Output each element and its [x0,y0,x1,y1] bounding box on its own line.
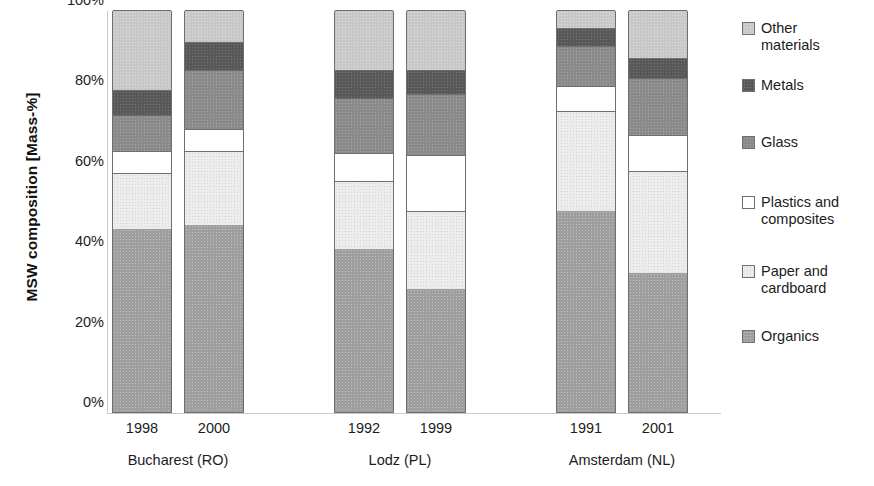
bar-segment-1992-other-materials [335,10,393,70]
legend-item-label: Glass [761,134,798,151]
bar-segment-1998-plastics-and-composites [113,151,171,173]
legend-item-label: Paper and cardboard [761,263,828,297]
bar-2000 [184,11,244,413]
legend-item-label: Other materials [761,20,820,54]
bar-segment-1999-metals [407,70,465,94]
legend-item-other-materials[interactable]: Other materials [742,20,820,54]
bar-segment-1992-plastics-and-composites [335,153,393,181]
legend-item-paper-and-cardboard[interactable]: Paper and cardboard [742,263,828,297]
plot-area [108,11,720,413]
bar-segment-1999-other-materials [407,10,465,70]
msw-composition-chart: MSW composition [Mass-%] 0%20%40%60%80%1… [0,0,874,486]
bar-1998 [112,11,172,413]
bar-segment-1991-paper-and-cardboard [557,111,615,212]
legend-swatch-icon [742,196,755,209]
bar-1991 [556,11,616,413]
bar-segment-2000-paper-and-cardboard [185,151,243,225]
bar-segment-1992-paper-and-cardboard [335,181,393,249]
x-axis-line [107,413,721,414]
bar-segment-2001-other-materials [629,10,687,58]
y-tick-label-100: 100% [38,0,104,8]
legend-swatch-icon [742,136,755,149]
bar-segment-2000-glass [185,70,243,128]
y-tick-label-40: 40% [38,233,104,249]
y-tick-label-0: 0% [38,394,104,410]
x-tick-label-2000: 2000 [174,420,254,436]
legend-item-label: Organics [761,328,819,345]
bar-segment-1992-glass [335,98,393,152]
bar-segment-1998-organics [113,229,171,412]
bar-segment-1991-glass [557,46,615,86]
y-axis-tick-labels: 0%20%40%60%80%100% [38,0,104,402]
bar-segment-1999-glass [407,94,465,154]
bar-segment-1998-paper-and-cardboard [113,173,171,229]
legend-swatch-icon [742,22,755,35]
bar-2001 [628,11,688,413]
group-label-lodz-pl-: Lodz (PL) [290,452,510,468]
bar-segment-2000-other-materials [185,10,243,42]
legend-item-plastics-and-composites[interactable]: Plastics and composites [742,194,839,228]
bar-segment-1998-metals [113,90,171,114]
bar-segment-2001-organics [629,273,687,412]
legend-swatch-icon [742,265,755,278]
bar-segment-2001-paper-and-cardboard [629,171,687,274]
bar-segment-1991-metals [557,28,615,46]
legend-item-label: Plastics and composites [761,194,839,228]
y-tick-label-80: 80% [38,72,104,88]
bar-segment-1992-organics [335,249,393,412]
x-tick-label-2001: 2001 [618,420,698,436]
bar-segment-2001-glass [629,78,687,134]
bar-segment-2000-metals [185,42,243,70]
bar-segment-1999-paper-and-cardboard [407,211,465,289]
bar-segment-1991-other-materials [557,10,615,28]
y-tick-label-20: 20% [38,314,104,330]
x-tick-label-1999: 1999 [396,420,476,436]
legend-swatch-icon [742,330,755,343]
x-tick-label-1998: 1998 [102,420,182,436]
legend-item-label: Metals [761,77,804,94]
x-axis-group-labels: Bucharest (RO)Lodz (PL)Amsterdam (NL) [0,452,874,480]
bar-segment-1991-organics [557,211,615,412]
legend-item-glass[interactable]: Glass [742,134,798,151]
bar-segment-1999-organics [407,289,465,412]
legend-swatch-icon [742,79,755,92]
bar-segment-2000-organics [185,225,243,412]
legend-item-organics[interactable]: Organics [742,328,819,345]
bar-segment-2000-plastics-and-composites [185,129,243,151]
x-tick-label-1992: 1992 [324,420,404,436]
bar-segment-1998-other-materials [113,10,171,90]
bar-segment-1998-glass [113,115,171,151]
x-tick-label-1991: 1991 [546,420,626,436]
bar-segment-2001-plastics-and-composites [629,135,687,171]
group-label-bucharest-ro-: Bucharest (RO) [68,452,288,468]
bar-1999 [406,11,466,413]
bar-segment-1992-metals [335,70,393,98]
bar-1992 [334,11,394,413]
x-axis-year-labels: 199820001992199919912001 [0,420,874,450]
bar-segment-1999-plastics-and-composites [407,155,465,211]
bar-segment-2001-metals [629,58,687,78]
group-label-amsterdam-nl-: Amsterdam (NL) [512,452,732,468]
bar-segment-1991-plastics-and-composites [557,86,615,110]
legend-item-metals[interactable]: Metals [742,77,804,94]
y-tick-label-60: 60% [38,153,104,169]
